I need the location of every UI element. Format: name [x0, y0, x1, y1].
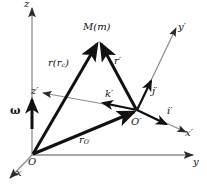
- y-prime-axis-label: y′: [178, 22, 186, 32]
- origin-label: O: [28, 157, 36, 167]
- vector-r-prime-label: r′: [114, 56, 121, 66]
- moving-origin-tick: ′: [139, 116, 141, 127]
- x-axis-label: x: [16, 168, 22, 178]
- unit-vector-k-prime-label: k′: [105, 89, 113, 99]
- unit-vector-j-tick: ′: [155, 85, 157, 96]
- vector-r-Oprime: [33, 112, 134, 154]
- unit-vector-j-prime: [137, 81, 151, 110]
- x-prime-axis-tick: ′: [191, 127, 193, 138]
- vector-r-Oprime-label: rO′: [79, 135, 90, 146]
- unit-vector-k-tick: ′: [111, 88, 113, 99]
- x-prime-axis-label: x′: [185, 128, 193, 138]
- vector-r-prime-tick: ′: [119, 55, 121, 66]
- z-prime-axis-label: z′: [31, 86, 39, 96]
- y-axis-label: y: [193, 157, 199, 167]
- y-prime-axis-tick: ′: [184, 21, 186, 32]
- vector-r-label: r(rc): [48, 58, 69, 69]
- mass-point-label: M(m): [83, 22, 111, 32]
- moving-origin-letter: O: [131, 116, 139, 127]
- moving-axes-group: [43, 28, 186, 132]
- vector-r-prime: [101, 44, 136, 109]
- vector-omega-label: ω: [10, 105, 20, 116]
- unit-vector-i-tick: ′: [170, 105, 172, 116]
- vector-diagram: z y x z′ y′ x′ O O′ M(m) r(rc) r′ rO′ ω …: [0, 0, 207, 184]
- unit-vector-j-prime-label: j′: [152, 86, 157, 96]
- vector-r-Oprime-subscript: O′: [84, 138, 90, 145]
- z-prime-axis-tick: ′: [36, 85, 38, 96]
- moving-origin-label: O′: [131, 117, 141, 127]
- z-axis-label: z: [24, 0, 29, 9]
- vector-r-paren-close: ): [65, 57, 69, 68]
- unit-vector-i-prime-label: i′: [167, 106, 172, 116]
